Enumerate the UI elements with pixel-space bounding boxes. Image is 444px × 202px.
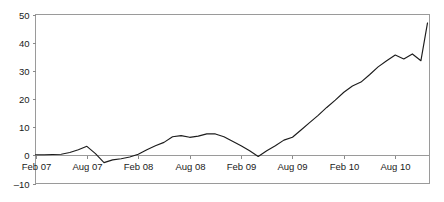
- x-tick-label: Aug 10: [380, 161, 410, 172]
- x-tick-label: Feb 07: [22, 161, 52, 172]
- x-tick-label: Aug 08: [175, 161, 205, 172]
- y-tick-label: 10: [19, 122, 30, 133]
- x-tick-label: Feb 10: [330, 161, 360, 172]
- x-tick-label: Aug 09: [277, 161, 307, 172]
- series-line-1: [36, 23, 428, 163]
- x-tick-labels: Feb 07Aug 07Feb 08Aug 08Feb 09Aug 09Feb …: [22, 161, 411, 172]
- plot-frame: [36, 15, 430, 184]
- line-chart: –1001020304050 Feb 07Aug 07Feb 08Aug 08F…: [0, 0, 444, 202]
- y-tick-label: 30: [19, 66, 30, 77]
- data-series-group: [36, 23, 428, 163]
- y-tick-label: 0: [24, 150, 29, 161]
- x-tick-label: Aug 07: [72, 161, 102, 172]
- frame-border: [36, 15, 430, 184]
- y-tick-label: 20: [19, 94, 30, 105]
- x-tick-label: Feb 09: [227, 161, 257, 172]
- y-tick-label: 50: [19, 10, 30, 21]
- chart-canvas: –1001020304050 Feb 07Aug 07Feb 08Aug 08F…: [0, 0, 444, 202]
- y-tick-label: –10: [14, 179, 30, 190]
- x-tick-label: Feb 08: [124, 161, 154, 172]
- y-tick-label: 40: [19, 38, 30, 49]
